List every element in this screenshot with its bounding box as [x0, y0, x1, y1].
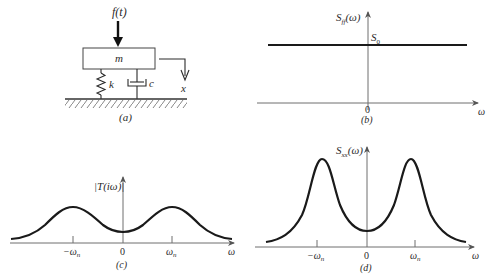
panel-a-caption: (a): [119, 111, 132, 124]
panel-c-transfer-function: |T(iω)| −ωn 0 ωn ω (c): [10, 177, 235, 271]
neg-wn-label: −ωn: [63, 246, 81, 259]
response-spectrum-curve: [266, 159, 466, 242]
damper-label: c: [149, 77, 154, 89]
panel-c-caption: (c): [116, 259, 128, 271]
damper-icon: [128, 69, 146, 99]
pos-wn-label: ωn: [410, 250, 421, 263]
neg-wn-label: −ωn: [307, 250, 325, 263]
origin-label: 0: [120, 246, 125, 257]
figure: f(t) m k c x: [0, 0, 493, 276]
mass-label: m: [115, 52, 123, 64]
transfer-function-curve: [11, 207, 232, 239]
y-axis-label: |T(iω)|: [94, 180, 124, 193]
panel-d-caption: (d): [360, 262, 372, 274]
spring-icon: [97, 69, 105, 99]
pos-wn-label: ωn: [166, 246, 177, 259]
origin-label: 0: [364, 250, 369, 261]
force-label: f(t): [112, 5, 127, 19]
spring-label: k: [109, 78, 115, 90]
force-arrow-icon: [113, 21, 123, 47]
y-axis-label: Sxx(ω): [336, 144, 363, 159]
panel-d-response-spectrum: Sxx(ω) −ωn 0 ωn ω (d): [255, 144, 479, 274]
panel-a-spring-mass-damper: f(t) m k c x: [65, 5, 189, 124]
x-axis-label: ω: [228, 246, 235, 257]
y-axis-label: Sff(ω): [336, 11, 361, 26]
x-axis-label: ω: [472, 250, 479, 261]
ground-icon: [65, 99, 187, 108]
level-label: S0: [371, 31, 381, 46]
displacement-arrow-icon: [159, 59, 189, 80]
x-axis-label: ω: [478, 106, 485, 117]
panel-b-input-spectrum: Sff(ω) S0 0 ω (b): [257, 11, 485, 126]
displacement-label: x: [180, 82, 186, 94]
panel-b-caption: (b): [361, 114, 373, 126]
